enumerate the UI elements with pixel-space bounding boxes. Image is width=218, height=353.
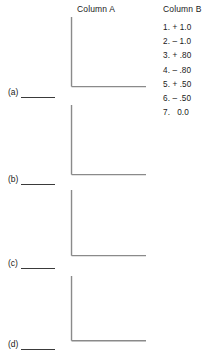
column-b-item: 2. – 1.0 (163, 35, 218, 49)
lineplot-c-svg (70, 190, 146, 257)
column-b-item-number: 1. (163, 23, 170, 32)
column-b-item-value: – 1.0 (172, 37, 191, 46)
column-b-item-number: 2. (163, 37, 170, 46)
answer-row-b: (b) (8, 174, 55, 185)
column-b-item-number: 4. (163, 66, 170, 75)
answer-row-a: (a) (8, 87, 55, 98)
column-b-item-number: 6. (163, 94, 170, 103)
column-b-list: 1. + 1.0 2. – 1.0 3. + .80 4. – .80 5. +… (163, 21, 218, 120)
column-b-item-number: 3. (163, 51, 170, 60)
lineplot-d-svg (70, 276, 146, 342)
plot-axes-d (72, 276, 146, 341)
plot-axes-c (72, 190, 146, 256)
column-b-item: 4. – .80 (163, 64, 218, 78)
answer-blank-d[interactable] (21, 340, 55, 350)
column-b-header: Column B (163, 4, 202, 14)
scatterplot-a (70, 17, 146, 88)
column-a-header: Column A (77, 4, 115, 14)
column-b-item-value: + 1.0 (172, 23, 191, 32)
answer-row-c: (c) (8, 258, 55, 269)
scatterplot-a-svg (70, 17, 146, 88)
column-b-item: 7. 0.0 (163, 106, 218, 120)
column-b-item: 1. + 1.0 (163, 21, 218, 35)
answer-label-a: (a) (8, 87, 18, 98)
column-b-item-value: – .50 (172, 94, 191, 103)
plot-axes-b (72, 105, 146, 175)
answer-label-c: (c) (8, 258, 18, 269)
column-b-item-value: – .80 (172, 66, 191, 75)
correlation-worksheet: Column A Column B 1. + 1.0 2. – 1.0 3. +… (0, 0, 218, 353)
answer-label-d: (d) (8, 339, 18, 350)
lineplot-c (70, 190, 146, 257)
answer-blank-c[interactable] (21, 259, 55, 269)
answer-blank-a[interactable] (21, 88, 55, 98)
scatterplot-b (70, 105, 146, 176)
scatterplot-b-svg (70, 105, 146, 176)
column-b-item: 6. – .50 (163, 92, 218, 106)
answer-blank-b[interactable] (21, 175, 55, 185)
column-b-item-value: + .50 (172, 80, 191, 89)
plot-axes-a (72, 17, 146, 87)
column-b-item-number: 5. (163, 80, 170, 89)
answer-label-b: (b) (8, 174, 18, 185)
column-b-item: 5. + .50 (163, 78, 218, 92)
column-b-item-value: 0.0 (172, 108, 188, 117)
answer-row-d: (d) (8, 339, 55, 350)
column-b-item-number: 7. (163, 108, 170, 117)
column-b-item: 3. + .80 (163, 49, 218, 63)
lineplot-d (70, 276, 146, 342)
column-b-item-value: + .80 (172, 51, 191, 60)
